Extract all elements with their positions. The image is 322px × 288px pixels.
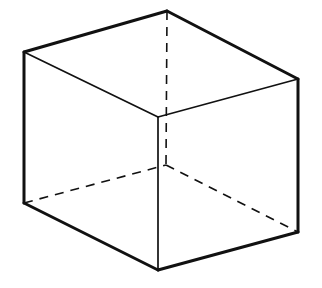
edge-bottom_back_hidden-bottom_right — [166, 165, 298, 232]
cube-diagram — [0, 0, 322, 288]
hidden-edges — [24, 11, 298, 232]
edge-bottom_left-bottom_front — [24, 203, 158, 270]
edge-bottom_front-bottom_right — [158, 232, 298, 270]
edge-top_front-top_right — [158, 79, 298, 117]
edge-top_back-bottom_back_hidden — [166, 11, 167, 165]
edge-bottom_left-bottom_back_hidden — [24, 165, 166, 203]
edge-top_left-top_back — [24, 11, 167, 52]
visible-edges — [24, 11, 298, 270]
edge-top_left-top_front — [24, 52, 158, 117]
edge-top_back-top_right — [167, 11, 298, 79]
